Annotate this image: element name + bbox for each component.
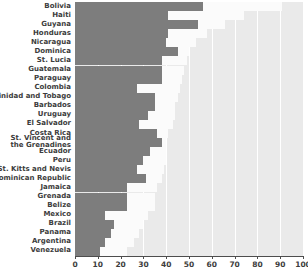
plot-area [75, 2, 303, 256]
bar-row[interactable] [75, 47, 303, 56]
bar-row[interactable] [75, 29, 303, 38]
y-axis-label: Haiti [52, 12, 71, 20]
y-axis-label: Colombia [34, 84, 71, 92]
bar-row[interactable] [75, 129, 303, 138]
bar-row[interactable] [75, 120, 303, 129]
bar-foreground-series [75, 20, 198, 29]
y-axis-labels: BoliviaHaitiGuyanaHondurasNicaraguaDomin… [0, 2, 73, 256]
y-axis-label: Uruguay [38, 111, 71, 119]
bar-foreground-series [75, 211, 105, 220]
x-axis: 0102030405060708090100 [75, 256, 303, 275]
bar-row[interactable] [75, 193, 303, 202]
x-tick-mark [280, 256, 281, 259]
bar-row[interactable] [75, 165, 303, 174]
bar-foreground-series [75, 93, 155, 102]
bar-foreground-series [75, 47, 178, 56]
y-axis-label: Belize [47, 202, 71, 210]
y-axis-label: Honduras [33, 30, 71, 38]
bar-foreground-series [75, 247, 100, 256]
y-axis-label: Bolivia [44, 3, 71, 11]
bar-foreground-series [75, 174, 146, 183]
x-tick-label: 30 [138, 260, 148, 269]
bar-foreground-series [75, 193, 127, 202]
bar-row[interactable] [75, 56, 303, 65]
x-tick-mark [166, 256, 167, 259]
y-axis-label: El Salvador [27, 120, 71, 128]
bar-row[interactable] [75, 2, 303, 11]
bar-row[interactable] [75, 75, 303, 84]
bar-row[interactable] [75, 183, 303, 192]
y-axis-label: Dominican Republic [0, 175, 71, 183]
y-axis-label: Argentina [32, 238, 71, 246]
x-tick-mark [75, 256, 76, 259]
y-axis-label: Guatemala [28, 66, 71, 74]
bar-foreground-series [75, 56, 162, 65]
y-axis-label: Panama [40, 229, 71, 237]
y-axis-label: Mexico [43, 211, 71, 219]
bar-row[interactable] [75, 229, 303, 238]
bar-foreground-series [75, 156, 143, 165]
bar-row[interactable] [75, 220, 303, 229]
bar-row[interactable] [75, 111, 303, 120]
bar-row[interactable] [75, 66, 303, 75]
x-tick-label: 20 [115, 260, 125, 269]
bar-foreground-series [75, 147, 150, 156]
x-tick-label: 50 [184, 260, 194, 269]
y-axis-label: Guyana [41, 21, 71, 29]
bar-foreground-series [75, 120, 139, 129]
y-axis-label: Paraguay [34, 75, 71, 83]
x-tick-label: 80 [252, 260, 262, 269]
bar-row[interactable] [75, 174, 303, 183]
y-axis-label: Peru [53, 157, 71, 165]
bar-foreground-series [75, 75, 162, 84]
x-tick-mark [98, 256, 99, 259]
x-tick-mark [235, 256, 236, 259]
bar-foreground-series [75, 138, 162, 147]
bar-foreground-series [75, 29, 168, 38]
bar-foreground-series [75, 165, 137, 174]
y-axis-label: Brazil [49, 220, 71, 228]
bar-foreground-series [75, 2, 203, 11]
y-axis-label: Dominica [34, 48, 71, 56]
x-tick-mark [212, 256, 213, 259]
x-tick-label: 70 [229, 260, 239, 269]
bar-foreground-series [75, 183, 127, 192]
bar-foreground-series [75, 220, 114, 229]
bar-row[interactable] [75, 20, 303, 29]
x-tick-mark [143, 256, 144, 259]
bar-row[interactable] [75, 147, 303, 156]
x-tick-label: 40 [161, 260, 171, 269]
x-tick-mark [189, 256, 190, 259]
bar-row[interactable] [75, 84, 303, 93]
y-axis-label: Grenada [38, 193, 71, 201]
bar-row[interactable] [75, 102, 303, 111]
bar-foreground-series [75, 129, 157, 138]
bar-foreground-series [75, 111, 148, 120]
x-tick-label: 60 [207, 260, 217, 269]
bar-row[interactable] [75, 11, 303, 20]
y-axis-label: Trinidad and Tobago [0, 93, 71, 101]
x-tick-label: 10 [93, 260, 103, 269]
x-tick-label: 90 [275, 260, 285, 269]
bar-row[interactable] [75, 238, 303, 247]
bar-foreground-series [75, 11, 168, 20]
bar-chart: BoliviaHaitiGuyanaHondurasNicaraguaDomin… [0, 0, 308, 275]
bar-row[interactable] [75, 138, 303, 147]
bar-row[interactable] [75, 38, 303, 47]
bar-row[interactable] [75, 211, 303, 220]
x-tick-mark [121, 256, 122, 259]
bar-foreground-series [75, 202, 127, 211]
bar-row[interactable] [75, 93, 303, 102]
y-axis-label: Nicaragua [31, 39, 71, 47]
y-axis-label: St. Lucia [37, 57, 71, 65]
x-tick-mark [257, 256, 258, 259]
bar-row[interactable] [75, 202, 303, 211]
bar-foreground-series [75, 84, 137, 93]
x-tick-mark [303, 256, 304, 259]
x-tick-label: 0 [72, 260, 77, 269]
bar-foreground-series [75, 229, 111, 238]
y-axis-label: Ecuador [39, 148, 71, 156]
bar-foreground-series [75, 238, 105, 247]
bar-row[interactable] [75, 247, 303, 256]
bar-row[interactable] [75, 156, 303, 165]
